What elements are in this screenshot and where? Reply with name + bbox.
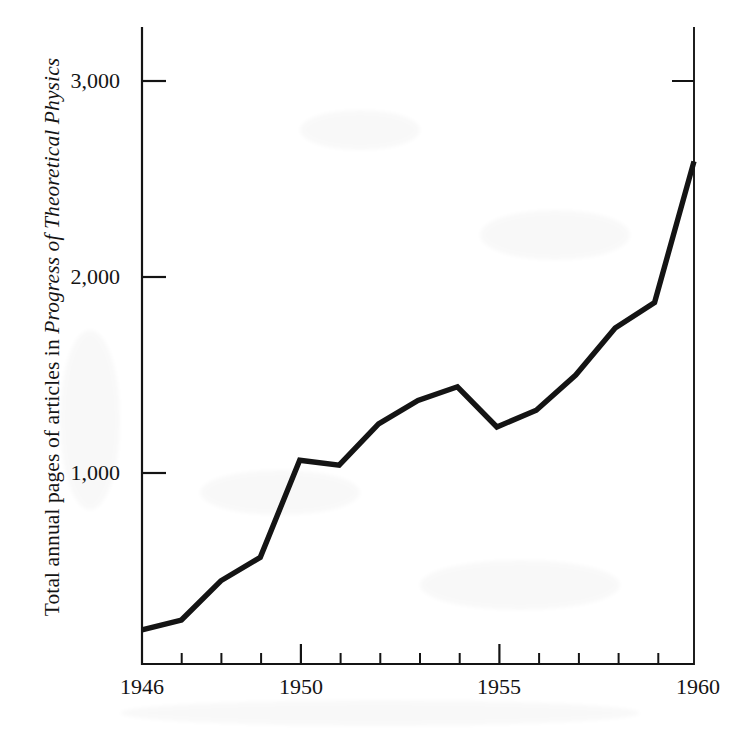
plot-area: [0, 0, 752, 734]
figure-panel: Total annual pages of articles in Progre…: [0, 0, 752, 734]
x-axis-major-ticks: [301, 644, 500, 664]
y-axis-ticks: [142, 81, 166, 473]
x-axis-minor-ticks: [182, 653, 659, 664]
data-series-line: [142, 161, 694, 629]
